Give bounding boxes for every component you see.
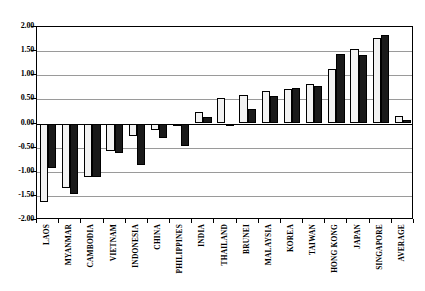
bar xyxy=(159,124,167,138)
x-tick-label: AVERAGE xyxy=(398,224,406,288)
x-tick-mark xyxy=(169,219,170,223)
x-tick-label: INDONESIA xyxy=(132,224,140,288)
x-tick-label: KOREA xyxy=(287,224,295,288)
x-tick-mark xyxy=(391,219,392,223)
bar xyxy=(306,84,314,123)
plot-area xyxy=(36,26,413,219)
y-tick-label: 2.00 xyxy=(0,22,34,30)
bars-layer xyxy=(37,27,412,218)
x-tick-label: THAILAND xyxy=(221,224,229,288)
bar xyxy=(129,124,137,136)
x-tick-label: HONG KONG xyxy=(331,224,339,288)
x-tick-label: CHINA xyxy=(154,224,162,288)
x-tick-label: BRUNEI xyxy=(243,224,251,288)
bar xyxy=(350,49,358,123)
bar xyxy=(217,98,225,123)
y-tick-label: 0.50 xyxy=(0,94,34,102)
bar xyxy=(62,124,70,188)
bar xyxy=(151,124,159,130)
x-tick-mark xyxy=(213,219,214,223)
x-tick-label: MALAYSIA xyxy=(265,224,273,288)
bar xyxy=(270,96,278,124)
x-tick-mark xyxy=(236,219,237,223)
y-tick-label: -2.00 xyxy=(0,215,34,223)
y-tick-label: 1.50 xyxy=(0,46,34,54)
x-tick-mark xyxy=(58,219,59,223)
y-tick-label: 1.00 xyxy=(0,70,34,78)
x-tick-label: VIETNAM xyxy=(110,224,118,288)
bar xyxy=(336,54,344,124)
bar-chart: 1996 2006 2.001.501.000.500.00-0.50-1.00… xyxy=(0,0,425,291)
y-tick-label: -0.50 xyxy=(0,143,34,151)
bar xyxy=(292,88,300,123)
bar xyxy=(328,69,336,124)
x-tick-mark xyxy=(147,219,148,223)
bar xyxy=(48,124,56,168)
bar xyxy=(92,124,100,177)
bar xyxy=(84,124,92,177)
x-tick-mark xyxy=(280,219,281,223)
bar xyxy=(203,117,211,123)
bar xyxy=(395,116,403,124)
x-tick-label: LAOS xyxy=(43,224,51,288)
bar xyxy=(381,35,389,124)
x-tick-mark xyxy=(413,219,414,223)
bar xyxy=(106,124,114,152)
bar xyxy=(137,124,145,165)
x-tick-label: CAMBODIA xyxy=(87,224,95,288)
y-tick-label: -1.50 xyxy=(0,191,34,199)
x-tick-mark xyxy=(125,219,126,223)
x-tick-label: SINGAPORE xyxy=(376,224,384,288)
bar xyxy=(226,124,234,126)
bar xyxy=(403,120,411,124)
bar xyxy=(173,124,181,127)
bar xyxy=(181,124,189,146)
x-tick-mark xyxy=(80,219,81,223)
x-tick-mark xyxy=(369,219,370,223)
bar xyxy=(239,95,247,124)
x-tick-mark xyxy=(103,219,104,223)
bar xyxy=(248,109,256,123)
x-tick-mark xyxy=(191,219,192,223)
x-tick-mark xyxy=(346,219,347,223)
bar xyxy=(359,55,367,124)
x-tick-mark xyxy=(36,219,37,223)
bar xyxy=(262,91,270,123)
x-tick-label: TAIWAN xyxy=(309,224,317,288)
x-tick-label: MYANMAR xyxy=(65,224,73,288)
bar xyxy=(284,89,292,124)
bar xyxy=(115,124,123,154)
bar xyxy=(373,38,381,123)
bar xyxy=(70,124,78,195)
x-tick-mark xyxy=(324,219,325,223)
y-tick-label: -1.00 xyxy=(0,167,34,175)
bar xyxy=(195,112,203,124)
y-tick-label: 0.00 xyxy=(0,119,34,127)
x-tick-mark xyxy=(258,219,259,223)
x-tick-label: JAPAN xyxy=(354,224,362,288)
bar xyxy=(314,86,322,123)
x-tick-label: INDIA xyxy=(198,224,206,288)
bar xyxy=(40,124,48,203)
x-tick-label: PHILIPPINES xyxy=(176,224,184,288)
x-tick-mark xyxy=(302,219,303,223)
